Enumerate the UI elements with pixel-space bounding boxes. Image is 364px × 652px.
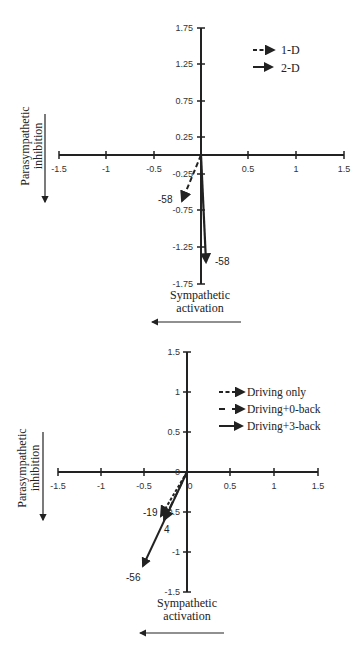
x-tick: -0.5: [136, 481, 152, 491]
y-tick: 1.25: [175, 59, 193, 69]
legend-label: 2-D: [281, 61, 300, 75]
y-tick: -1: [172, 547, 180, 557]
y-axis-label: Parasympathetic inhibition: [15, 428, 42, 507]
y-axis-label: Parasympathetic inhibition: [18, 106, 45, 185]
svg-text:Parasympathetic: Parasympathetic: [18, 106, 32, 185]
x-tick: 1.5: [338, 164, 351, 174]
y-tick: 1.5: [167, 347, 180, 357]
legend-bottom: Driving only Driving+0-back Driving+3-ba…: [219, 386, 321, 433]
y-tick: -0.25: [172, 169, 193, 179]
legend-top: 1-D 2-D: [253, 43, 300, 75]
x-tick: 1.5: [312, 481, 325, 491]
x-axis-label: activation: [176, 301, 223, 315]
x-tick: 1: [271, 481, 276, 491]
y-tick: -1.25: [172, 242, 193, 252]
x-axis-label: Sympathetic: [157, 596, 217, 610]
legend-label: Driving+0-back: [247, 403, 321, 416]
x-tick: -1: [97, 481, 105, 491]
annotation-2d: -58: [215, 256, 230, 267]
annotation-1d: -58: [158, 194, 173, 205]
annotation-driving-only: -19: [143, 507, 158, 518]
chart-top-svg: -1.5 -1 -0.5 0.5 1 1.5 1.75 1.25 0.75 0.…: [0, 0, 364, 330]
y-tick: 0.25: [175, 132, 193, 142]
x-tick: -0.5: [146, 164, 162, 174]
annotation-driving-3-back: -56: [126, 572, 141, 583]
x-tick: 0: [187, 481, 192, 491]
x-tick: -1.5: [50, 481, 66, 491]
svg-text:inhibition: inhibition: [28, 445, 42, 492]
x-tick: 0.5: [242, 164, 255, 174]
x-tick: 1: [293, 164, 298, 174]
x-axis-label: Sympathetic: [170, 288, 230, 302]
chart-top: -1.5 -1 -0.5 0.5 1 1.5 1.75 1.25 0.75 0.…: [0, 0, 364, 330]
y-tick: 1.75: [175, 23, 193, 33]
y-tick: 0: [175, 467, 180, 477]
x-tick: 0.5: [224, 481, 237, 491]
legend-label: 1-D: [281, 43, 300, 57]
svg-text:Parasympathetic: Parasympathetic: [15, 428, 29, 507]
y-tick: 1: [175, 387, 180, 397]
x-axis-label: activation: [163, 609, 210, 623]
chart-bottom-svg: -1.5 -1 -0.5 0 0.5 1 1.5 1.5 1 0.5 0 -0.…: [0, 330, 364, 652]
annotation-driving-0-back: 4: [164, 524, 170, 535]
x-tick: -1.5: [51, 164, 67, 174]
chart-bottom: -1.5 -1 -0.5 0 0.5 1 1.5 1.5 1 0.5 0 -0.…: [0, 330, 364, 652]
svg-text:inhibition: inhibition: [31, 123, 45, 170]
legend-label: Driving+3-back: [247, 420, 321, 433]
y-tick: 0.75: [175, 96, 193, 106]
x-tick: -1: [102, 164, 110, 174]
y-tick: 0.5: [167, 427, 180, 437]
y-tick: -0.75: [172, 205, 193, 215]
legend-label: Driving only: [247, 386, 306, 399]
